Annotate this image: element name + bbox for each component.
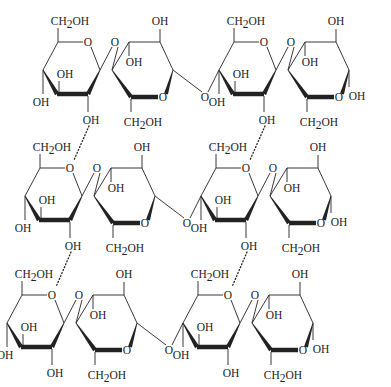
oh-label: OH — [47, 367, 64, 379]
glycosidic-bond — [172, 323, 183, 345]
bond — [300, 295, 313, 323]
ring-oxygen: O — [66, 162, 74, 174]
wedge-bond — [289, 221, 316, 226]
glucose-ring: OOHOHCH2OHOH — [270, 141, 348, 257]
glycosidic-bond — [258, 173, 270, 196]
wedge-bond — [112, 70, 133, 99]
oh-label: OH — [209, 96, 226, 108]
wedge-bond — [21, 345, 52, 350]
oh-label: OH — [173, 349, 190, 361]
oh-label: OH — [313, 343, 330, 355]
bond — [124, 295, 137, 323]
chain-1: CH2OHOOHOHOHOOOHOHCH2OHOCH2OHOOHOHOHOOOH… — [33, 15, 366, 131]
wedge-bond — [197, 345, 228, 350]
wedge-bond — [233, 92, 264, 97]
oh-label: OH — [33, 96, 50, 108]
ch2oh-label: CH2OH — [227, 15, 265, 30]
wedge-bond — [288, 70, 309, 99]
oh-label: OH — [57, 68, 74, 80]
bond — [249, 173, 258, 196]
wedge-bond — [244, 196, 258, 221]
ch2oh-label: CH2OH — [106, 242, 144, 257]
wedge-bond — [252, 323, 273, 352]
bond — [55, 300, 64, 323]
oh-label: OH — [134, 141, 151, 153]
wedge-bond — [95, 348, 122, 353]
ring-oxygen: O — [84, 36, 92, 48]
glucose-ring: CH2OHOOHOHOH — [209, 15, 277, 126]
glucose-ring: OOHOHCH2OH — [112, 15, 174, 131]
wedge-bond — [76, 323, 97, 352]
wedge-bond — [262, 70, 276, 95]
bond — [91, 47, 100, 70]
ch2oh-label: CH2OH — [88, 369, 126, 384]
oh-label: OH — [328, 15, 345, 27]
ch2oh-label: CH2OH — [264, 369, 302, 384]
structure-svg: CH2OHOOHOHOHOOOHOHCH2OHOCH2OHOOHOHOHOOOH… — [0, 0, 391, 387]
wedge-bond — [270, 196, 291, 225]
cellulose-structure-diagram: CH2OHOOHOHOHOOOHOHCH2OHOCH2OHOOHOHOHOOOH… — [0, 0, 391, 387]
glycosidic-bond — [82, 173, 94, 196]
glycosidic-oxygen: O — [75, 289, 83, 301]
glycosidic-oxygen: O — [111, 36, 119, 48]
bond — [336, 42, 349, 70]
glycosidic-oxygen: O — [269, 162, 277, 174]
glycosidic-oxygen: O — [251, 289, 259, 301]
oh-label: OH — [349, 90, 366, 102]
glucose-ring: CH2OHOOHOHOH — [0, 268, 64, 379]
wedge-bond — [307, 95, 334, 100]
hydrogen-bond — [250, 126, 265, 160]
oh-label: OH — [15, 222, 32, 234]
wedge-bond — [50, 323, 64, 348]
hydrogen-bond — [56, 252, 71, 287]
glycosidic-bond — [190, 196, 201, 218]
wedge-bond — [226, 323, 240, 348]
wedge-bond — [94, 196, 115, 225]
bond — [160, 42, 173, 70]
glucose-ring: CH2OHOOHOHOH — [33, 15, 101, 126]
bond — [73, 173, 82, 196]
hydrogen-bond — [74, 126, 89, 160]
ch2oh-label: CH2OH — [33, 141, 71, 156]
oh-label: OH — [259, 114, 276, 126]
glycosidic-bond — [100, 47, 112, 70]
ring-oxygen: O — [123, 344, 131, 356]
ring-oxygen: O — [159, 91, 167, 103]
ring-oxygen: O — [260, 36, 268, 48]
glucose-ring: OOHOHCH2OHOH — [288, 15, 366, 131]
wedge-bond — [68, 196, 82, 221]
ch2oh-label: CH2OH — [282, 242, 320, 257]
ring-oxygen: O — [317, 217, 325, 229]
oh-label: OH — [0, 349, 13, 361]
ring-oxygen: O — [299, 344, 307, 356]
glycosidic-bond — [240, 300, 252, 323]
oh-label: OH — [83, 114, 100, 126]
bond — [183, 295, 198, 323]
oh-label: OH — [191, 222, 208, 234]
oh-label: OH — [292, 268, 309, 280]
wedge-bond — [215, 218, 246, 223]
glucose-ring: CH2OHOOHOHOH — [191, 141, 259, 252]
oh-label: OH — [284, 182, 301, 194]
chain-2: CH2OHOOHOHOHOOOHOHCH2OHOCH2OHOOHOHOHOOOH… — [15, 141, 348, 257]
ch2oh-label: CH2OH — [15, 268, 53, 283]
glycosidic-bond — [64, 300, 76, 323]
glucose-ring: CH2OHOOHOHOH — [15, 141, 83, 252]
glycosidic-bond — [270, 173, 276, 196]
ring-oxygen: O — [48, 289, 56, 301]
hydrogen-bond — [232, 252, 247, 287]
ring-oxygen: O — [141, 217, 149, 229]
oh-label: OH — [302, 56, 319, 68]
oh-label: OH — [241, 240, 258, 252]
glucose-ring: OOHOHCH2OHOH — [252, 268, 330, 384]
glycosidic-bond — [276, 47, 288, 70]
glycosidic-oxygen: O — [287, 36, 295, 48]
glycosidic-bond — [76, 300, 82, 323]
oh-label: OH — [266, 309, 283, 321]
bond — [25, 168, 40, 196]
ring-oxygen: O — [242, 162, 250, 174]
glycosidic-bond — [288, 47, 294, 70]
oh-label: OH — [152, 15, 169, 27]
glucose-ring: OOHOHCH2OH — [76, 268, 138, 384]
bond — [43, 42, 58, 70]
